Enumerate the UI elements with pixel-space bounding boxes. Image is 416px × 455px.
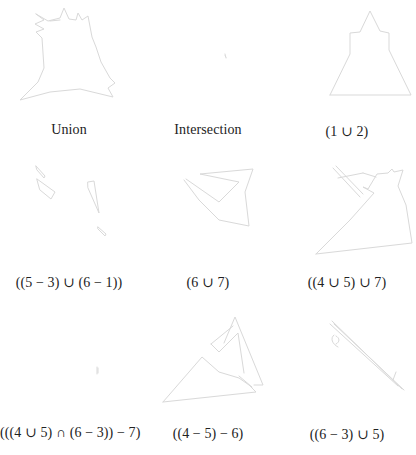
caption-1-union-2: (1 ∪ 2)	[278, 123, 416, 140]
4m5-minus-6-polygon-shape	[139, 300, 277, 410]
caption-intersection: Intersection	[139, 122, 277, 138]
union-polygon-shape	[0, 0, 138, 110]
intersection-polygon-shape	[139, 0, 277, 110]
4u5-int-6m3-minus-7-polygon-shape	[0, 300, 138, 410]
panel-6-union-7: (6 ∪ 7)	[139, 150, 277, 300]
caption-4u5-int-6m3-minus-7: (((4 ∪ 5) ∩ (6 − 3)) − 7)	[0, 424, 138, 441]
1-union-2-polygon-shape	[278, 0, 416, 110]
caption-5m3-union-6m1: ((5 − 3) ∪ (6 − 1))	[0, 274, 138, 291]
caption-4m5-minus-6: ((4 − 5) − 6)	[139, 426, 277, 442]
5m3-union-6m1-polygon-shape	[0, 150, 138, 260]
6-union-7-polygon-shape	[139, 150, 277, 260]
polygon-operations-figure: Union Intersection (1 ∪ 2) ((5 − 3) ∪ (6…	[0, 0, 416, 455]
caption-6m3-union-5: ((6 − 3) ∪ 5)	[278, 426, 416, 443]
panel-intersection: Intersection	[139, 0, 277, 150]
panel-union: Union	[0, 0, 138, 150]
caption-union: Union	[0, 122, 138, 138]
4u5-union-7-polygon-shape	[278, 150, 416, 260]
panel-4u5-int-6m3-minus-7: (((4 ∪ 5) ∩ (6 − 3)) − 7)	[0, 300, 138, 455]
panel-4u5-union-7: ((4 ∪ 5) ∪ 7)	[278, 150, 416, 300]
6m3-union-5-polygon-shape	[278, 300, 416, 410]
panel-6m3-union-5: ((6 − 3) ∪ 5)	[278, 300, 416, 455]
panel-1-union-2: (1 ∪ 2)	[278, 0, 416, 150]
caption-6-union-7: (6 ∪ 7)	[139, 274, 277, 291]
panel-4m5-minus-6: ((4 − 5) − 6)	[139, 300, 277, 455]
caption-4u5-union-7: ((4 ∪ 5) ∪ 7)	[278, 274, 416, 291]
panel-5m3-union-6m1: ((5 − 3) ∪ (6 − 1))	[0, 150, 138, 300]
